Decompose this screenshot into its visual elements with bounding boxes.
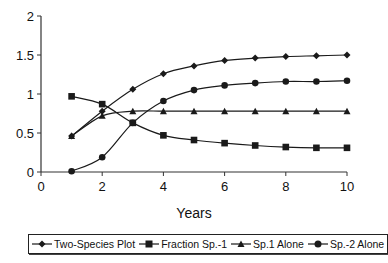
x-tick-label: 6 [221, 179, 228, 194]
x-tick-label: 8 [282, 179, 289, 194]
data-point [313, 52, 320, 59]
legend-item-fraction-sp1: Fraction Sp.-1 [139, 238, 227, 250]
data-point [344, 52, 351, 59]
series-sp-1-alone [68, 108, 350, 139]
legend-label: Sp.1 Alone [253, 238, 304, 250]
series-group [68, 52, 350, 175]
data-point [160, 70, 167, 77]
data-point [283, 144, 290, 151]
data-point [313, 145, 320, 152]
data-point [221, 57, 228, 64]
legend: Two-Species Plot Fraction Sp.-1 Sp.1 Alo… [28, 234, 388, 254]
y-tick-label: 0.5 [16, 126, 34, 141]
y-tick-label: 1.5 [16, 48, 34, 63]
series-sp-2-alone [68, 77, 350, 174]
data-point [99, 101, 106, 108]
legend-item-sp1-alone: Sp.1 Alone [231, 238, 304, 250]
triangle-marker-icon [231, 239, 251, 249]
data-point [68, 168, 75, 175]
data-point [99, 154, 106, 161]
data-point [160, 132, 167, 139]
data-point [282, 53, 289, 60]
data-point [344, 77, 351, 84]
data-point [129, 86, 136, 93]
x-tick-label: 4 [160, 179, 167, 194]
circle-marker-icon [308, 239, 328, 249]
data-point [191, 137, 198, 144]
y-tick-label: 1 [27, 87, 34, 102]
x-tick-label: 2 [99, 179, 106, 194]
x-tick-label: 10 [340, 179, 354, 194]
data-point [252, 55, 259, 62]
data-point [283, 78, 290, 85]
y-tick-label: 2 [27, 9, 34, 24]
data-point [68, 93, 75, 100]
x-tick-label: 0 [37, 179, 44, 194]
legend-item-sp2-alone: Sp.-2 Alone [308, 238, 384, 250]
series-fraction-sp-1 [68, 93, 350, 151]
data-point [191, 62, 198, 69]
data-point [191, 87, 198, 94]
legend-item-two-species: Two-Species Plot [32, 238, 135, 250]
square-marker-icon [139, 239, 159, 249]
legend-label: Fraction Sp.-1 [161, 238, 227, 250]
axes: 00.511.520246810 [16, 9, 354, 195]
data-point [313, 78, 320, 85]
data-point [252, 142, 259, 149]
data-point [130, 120, 137, 127]
data-point [344, 145, 351, 152]
data-point [221, 140, 228, 147]
diamond-marker-icon [32, 239, 52, 249]
series-two-species-plot [68, 52, 350, 140]
x-axis-title: Years [176, 205, 211, 221]
data-point [252, 80, 259, 87]
data-point [221, 82, 228, 89]
legend-label: Two-Species Plot [54, 238, 135, 250]
legend-label: Sp.-2 Alone [330, 238, 384, 250]
data-point [160, 98, 167, 105]
y-tick-label: 0 [27, 165, 34, 180]
